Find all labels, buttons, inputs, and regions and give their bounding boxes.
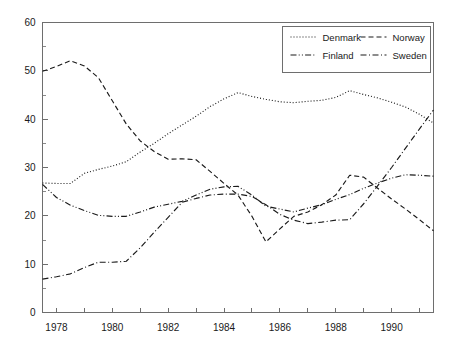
y-tick-label: 10 [24,259,36,270]
series-line-norway [43,61,434,242]
x-tick-label: 1988 [325,322,348,333]
x-tick-label: 1978 [45,322,68,333]
x-tick-label: 1986 [269,322,292,333]
x-tick-label: 1984 [213,322,236,333]
legend-label-sweden: Sweden [393,50,427,61]
x-tick-label: 1990 [380,322,403,333]
legend-label-finland: Finland [323,50,354,61]
y-tick-label: 60 [24,17,36,28]
series-line-sweden [43,110,434,279]
x-axis-tick-labels: 1978198019821984198619881990 [45,322,403,333]
chart-canvas: 1978198019821984198619881990 01020304050… [0,0,452,347]
legend-label-denmark: Denmark [323,32,362,43]
y-tick-label: 50 [24,65,36,76]
chart-legend: DenmarkNorwayFinlandSweden [283,27,431,73]
line-chart: 1978198019821984198619881990 01020304050… [0,0,452,347]
legend-label-norway: Norway [393,32,425,43]
y-tick-label: 30 [24,162,36,173]
x-tick-label: 1980 [101,322,124,333]
y-axis-tick-labels: 0102030405060 [24,17,36,318]
series-line-denmark [43,91,434,184]
chart-series-lines [43,61,434,279]
x-tick-label: 1982 [157,322,180,333]
y-tick-label: 40 [24,114,36,125]
series-line-finland [43,175,434,217]
y-tick-label: 0 [30,307,36,318]
y-tick-label: 20 [24,210,36,221]
